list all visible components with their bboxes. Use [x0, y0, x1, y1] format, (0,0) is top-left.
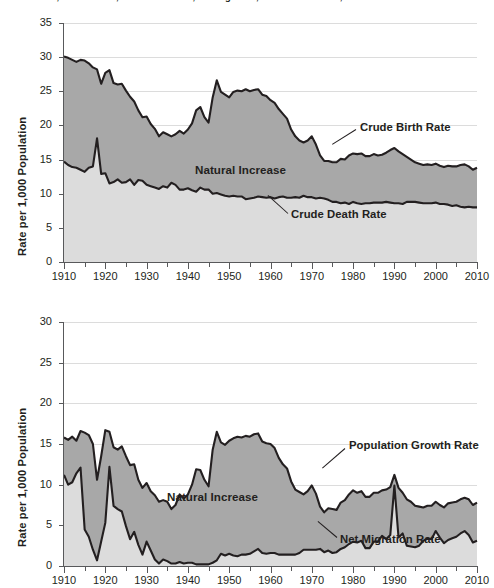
x-tick-mark-minor: [85, 567, 86, 571]
y-tick-mark: [59, 444, 64, 445]
x-tick-mark-major: [271, 567, 272, 573]
x-tick-label: 2000: [416, 574, 456, 586]
x-tick-label: 1970: [292, 574, 332, 586]
x-tick-mark-major: [312, 263, 313, 269]
x-tick-mark-major: [147, 567, 148, 573]
natural-increase-label: Natural Increase: [195, 163, 286, 176]
y-tick-label: 0: [22, 255, 52, 267]
x-tick-mark-minor: [332, 263, 333, 267]
x-tick-mark-major: [353, 263, 354, 269]
y-tick-label: 15: [22, 437, 52, 449]
y-tick-mark: [59, 525, 64, 526]
chart-panel-top: Rate per 1,000 Population 05101520253035…: [0, 14, 485, 299]
y-tick-mark: [59, 228, 64, 229]
x-tick-mark-minor: [85, 263, 86, 267]
x-tick-label: 1980: [333, 270, 373, 282]
x-tick-mark-minor: [415, 263, 416, 267]
y-tick-mark: [59, 23, 64, 24]
y-tick-label: 15: [22, 153, 52, 165]
y-tick-label: 30: [22, 315, 52, 327]
x-tick-label: 2000: [416, 270, 456, 282]
y-tick-mark: [59, 160, 64, 161]
x-tick-label: 1920: [85, 270, 125, 282]
natural-increase-label: Natural Increase: [167, 490, 258, 503]
x-tick-mark-minor: [456, 567, 457, 571]
x-tick-label: 1920: [85, 574, 125, 586]
y-tick-label: 10: [22, 478, 52, 490]
x-tick-label: 1910: [44, 270, 84, 282]
x-tick-mark-minor: [374, 263, 375, 267]
x-tick-mark-minor: [167, 567, 168, 571]
x-tick-label: 1940: [168, 574, 208, 586]
x-tick-mark-minor: [209, 263, 210, 267]
x-tick-mark-minor: [167, 263, 168, 267]
x-tick-mark-minor: [209, 567, 210, 571]
x-tick-label: 1960: [251, 574, 291, 586]
y-tick-label: 30: [22, 50, 52, 62]
y-tick-label: 20: [22, 118, 52, 130]
x-tick-label: 1960: [251, 270, 291, 282]
x-tick-mark-major: [105, 567, 106, 573]
plot-area-bottom: 0510152025301910192019301940195019601970…: [64, 322, 477, 566]
x-tick-mark-minor: [126, 263, 127, 267]
crude-death-rate-label: Crude Death Rate: [291, 208, 387, 220]
x-tick-label: 1940: [168, 270, 208, 282]
y-tick-mark: [59, 125, 64, 126]
y-tick-mark: [59, 322, 64, 323]
x-tick-label: 1990: [374, 270, 414, 282]
x-tick-label: 1980: [333, 574, 373, 586]
x-tick-label: 2010: [457, 270, 494, 282]
crude-birth-rate-label: Crude Birth Rate: [360, 121, 451, 133]
x-tick-mark-major: [353, 567, 354, 573]
x-tick-label: 1910: [44, 574, 84, 586]
x-tick-mark-minor: [250, 567, 251, 571]
x-tick-mark-minor: [415, 567, 416, 571]
x-tick-mark-major: [271, 263, 272, 269]
y-tick-label: 5: [22, 518, 52, 530]
x-tick-mark-major: [64, 567, 65, 573]
y-tick-mark: [59, 57, 64, 58]
x-tick-mark-major: [477, 567, 478, 573]
x-tick-mark-minor: [291, 567, 292, 571]
x-tick-mark-minor: [250, 263, 251, 267]
x-tick-label: 1950: [209, 270, 249, 282]
y-tick-label: 10: [22, 187, 52, 199]
x-tick-label: 1930: [127, 574, 167, 586]
x-tick-label: 1950: [209, 574, 249, 586]
x-tick-label: 1990: [374, 574, 414, 586]
x-tick-mark-major: [477, 263, 478, 269]
x-tick-mark-major: [394, 263, 395, 269]
x-tick-mark-major: [229, 567, 230, 573]
y-tick-label: 5: [22, 221, 52, 233]
y-tick-mark: [59, 363, 64, 364]
y-tick-mark: [59, 91, 64, 92]
x-tick-mark-major: [105, 263, 106, 269]
y-tick-mark: [59, 485, 64, 486]
x-tick-mark-minor: [126, 567, 127, 571]
population-growth-rate-label: Population Growth Rate: [349, 439, 479, 451]
chart-panel-bottom: Rate per 1,000 Population 05101520253019…: [0, 315, 485, 588]
x-tick-mark-major: [188, 263, 189, 269]
x-tick-mark-major: [394, 567, 395, 573]
x-tick-label: 2010: [457, 574, 494, 586]
y-tick-label: 0: [22, 559, 52, 571]
x-tick-mark-major: [188, 567, 189, 573]
x-tick-mark-minor: [374, 567, 375, 571]
y-tick-label: 25: [22, 84, 52, 96]
x-tick-mark-major: [436, 567, 437, 573]
x-tick-mark-major: [312, 567, 313, 573]
x-tick-mark-major: [147, 263, 148, 269]
y-tick-label: 20: [22, 396, 52, 408]
net-migration-rate-label: Net Migration Rate: [340, 533, 441, 545]
x-tick-label: 1970: [292, 270, 332, 282]
plot-area-top: 0510152025303519101920193019401950196019…: [64, 23, 477, 262]
x-tick-mark-major: [64, 263, 65, 269]
x-tick-label: 1930: [127, 270, 167, 282]
figure-title: Crude Birth, Crude Death, Natural Increa…: [6, 0, 485, 2]
x-tick-mark-minor: [456, 263, 457, 267]
x-tick-mark-minor: [332, 567, 333, 571]
series-group: [64, 23, 477, 262]
x-tick-mark-major: [229, 263, 230, 269]
y-tick-mark: [59, 403, 64, 404]
